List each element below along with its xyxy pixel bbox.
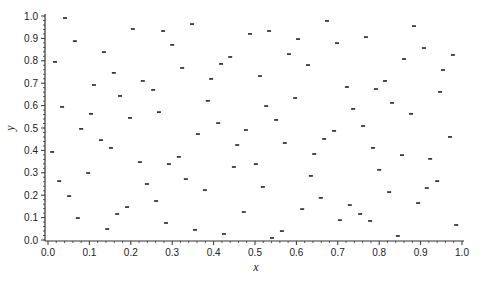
y-tick-label: 0.8 [24, 55, 38, 66]
data-point [228, 56, 232, 58]
data-point [67, 195, 71, 197]
data-point [73, 40, 77, 42]
data-point [454, 224, 458, 226]
data-point [383, 80, 387, 82]
y-tick-label: 0.4 [24, 145, 38, 156]
data-point [99, 139, 103, 141]
data-point [206, 100, 210, 102]
data-point [416, 202, 420, 204]
data-point [254, 163, 258, 165]
data-point [118, 95, 122, 97]
data-point [196, 133, 200, 135]
data-point [283, 142, 287, 144]
y-axis-title: y [3, 125, 17, 132]
data-point [115, 213, 119, 215]
data-point [151, 89, 155, 91]
data-point [203, 189, 207, 191]
data-point [348, 204, 352, 206]
data-point [242, 211, 246, 213]
data-point [441, 69, 445, 71]
axes: 0.00.10.20.30.40.50.60.70.80.91.00.00.10… [24, 11, 469, 259]
data-point [351, 108, 355, 110]
data-point [364, 36, 368, 38]
x-tick-label: 0.5 [248, 247, 262, 258]
data-point [300, 208, 304, 210]
data-point [102, 51, 106, 53]
data-point [92, 84, 96, 86]
scatter-chart: 0.00.10.20.30.40.50.60.70.80.91.00.00.10… [0, 0, 480, 283]
data-point [57, 180, 61, 182]
data-point [309, 175, 313, 177]
data-point [170, 44, 174, 46]
data-point [438, 91, 442, 93]
x-tick-label: 0.2 [124, 247, 138, 258]
x-tick-label: 0.8 [372, 247, 386, 258]
data-point [131, 28, 135, 30]
y-tick-label: 0.1 [24, 212, 38, 223]
x-axis-title: x [252, 260, 259, 274]
data-point [167, 163, 171, 165]
data-point [267, 30, 271, 32]
data-point [293, 97, 297, 99]
data-point [296, 38, 300, 40]
data-point [345, 86, 349, 88]
data-point [216, 122, 220, 124]
y-tick-label: 0.7 [24, 78, 38, 89]
data-point [209, 78, 213, 80]
data-point [89, 113, 93, 115]
data-point [425, 187, 429, 189]
data-point [374, 88, 378, 90]
data-point [248, 33, 252, 35]
data-point [157, 111, 161, 113]
data-point [232, 166, 236, 168]
data-point [368, 220, 372, 222]
y-tick-label: 0.2 [24, 190, 38, 201]
data-point [312, 153, 316, 155]
data-point [377, 169, 381, 171]
x-tick-label: 0.6 [289, 247, 303, 258]
data-point [306, 64, 310, 66]
data-point [390, 102, 394, 104]
y-tick-label: 0.3 [24, 167, 38, 178]
data-point [125, 206, 129, 208]
data-point [109, 147, 113, 149]
data-point [50, 151, 54, 153]
data-point [274, 119, 278, 121]
data-point [335, 42, 339, 44]
data-point [161, 30, 165, 32]
y-tick-label: 0.6 [24, 100, 38, 111]
data-point [138, 161, 142, 163]
data-point [422, 47, 426, 49]
data-point [177, 156, 181, 158]
data-points [50, 17, 458, 239]
data-point [219, 63, 223, 65]
data-point [358, 213, 362, 215]
data-point [332, 130, 336, 132]
data-point [371, 147, 375, 149]
y-tick-label: 0.9 [24, 33, 38, 44]
data-point [184, 178, 188, 180]
data-point [60, 106, 64, 108]
x-tick-label: 0.4 [207, 247, 221, 258]
data-point [400, 154, 404, 156]
x-tick-label: 0.0 [41, 247, 55, 258]
data-point [141, 80, 145, 82]
data-point [322, 138, 326, 140]
data-point [193, 229, 197, 231]
x-tick-label: 0.1 [82, 247, 96, 258]
data-point [448, 136, 452, 138]
data-point [86, 172, 90, 174]
x-tick-label: 1.0 [455, 247, 469, 258]
data-point [428, 158, 432, 160]
y-tick-label: 0.0 [24, 235, 38, 246]
data-point [261, 186, 265, 188]
data-point [402, 58, 406, 60]
data-point [76, 217, 80, 219]
data-point [145, 183, 149, 185]
data-point [451, 54, 455, 56]
data-point [387, 191, 391, 193]
data-point [154, 200, 158, 202]
data-point [112, 72, 116, 74]
data-point [396, 235, 400, 237]
data-point [287, 53, 291, 55]
